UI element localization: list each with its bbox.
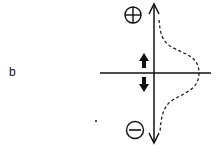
stray-dot: [95, 120, 97, 122]
minus-circle-icon: [127, 122, 144, 139]
bold-up-arrow-icon: [139, 53, 149, 68]
dashed-distribution-curve: [159, 20, 199, 132]
diagram-canvas: [0, 0, 223, 155]
plus-circle-icon: [125, 7, 141, 23]
bold-down-arrow-icon: [139, 77, 149, 92]
